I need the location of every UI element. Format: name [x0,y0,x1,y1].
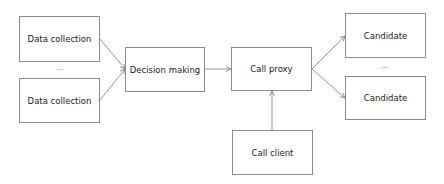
node-candidate-2: Candidate [345,76,426,120]
edge-call-proxy-to-candidate-1 [312,36,345,69]
node-label: Candidate [364,93,407,103]
node-label: Data collection [28,34,92,44]
node-label: Decision making [130,65,200,75]
node-label: Data collection [28,96,92,106]
edge-data-collection-2-to-decision-making [100,69,125,100]
ellipsis-candidates: ... [381,62,388,70]
node-candidate-1: Candidate [345,13,426,58]
edge-call-proxy-to-candidate-2 [312,69,345,98]
node-data-collection-2: Data collection [19,78,100,123]
node-label: Call proxy [250,64,292,74]
node-data-collection-1: Data collection [19,16,100,62]
node-label: Candidate [364,31,407,41]
ellipsis-data-collection: ... [56,64,63,72]
node-decision-making: Decision making [125,47,205,92]
node-call-client: Call client [232,130,313,175]
node-call-proxy: Call proxy [231,47,312,91]
node-label: Call client [252,148,294,158]
edge-data-collection-1-to-decision-making [100,39,125,69]
